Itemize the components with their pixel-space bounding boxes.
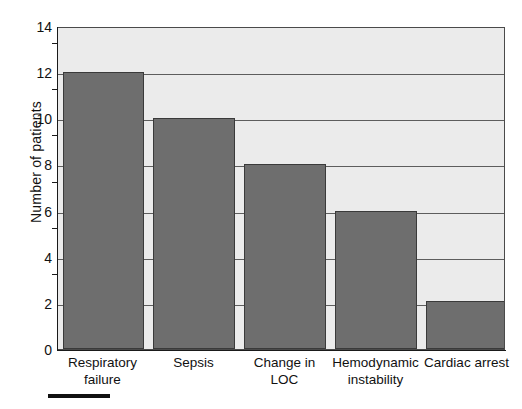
bar-cardiac-arrest[interactable] <box>426 301 505 350</box>
bar-change-in-loc[interactable] <box>244 164 326 349</box>
x-tick-label-line1: Sepsis <box>148 354 239 371</box>
x-tick-label-change-in-loc: Change in LOC <box>239 354 330 388</box>
x-tick-label-line1: Change in LOC <box>239 354 330 388</box>
x-tick-label-line1: Hemodynamic <box>330 354 421 371</box>
x-tick-label-line1: Cardiac arrest <box>421 354 512 371</box>
x-tick-label-sepsis: Sepsis <box>148 354 239 371</box>
bar-hemodynamic-instability[interactable] <box>335 211 417 349</box>
y-tick-label-12: 12 <box>26 64 52 82</box>
bar-chart-figure: Number of patients 0 2 4 6 8 10 12 14 <box>0 0 522 409</box>
plot-area <box>57 27 505 350</box>
y-axis-tick-labels: 0 2 4 6 8 10 12 14 <box>26 27 52 350</box>
x-tick-label-respiratory-failure: Respiratory failure <box>57 354 148 388</box>
y-tick-label-6: 6 <box>26 203 52 221</box>
y-tick-label-14: 14 <box>26 18 52 36</box>
y-tick-label-0: 0 <box>26 341 52 359</box>
x-axis-tick-labels: Respiratory failure Sepsis Change in LOC… <box>57 354 505 394</box>
bar-series <box>58 28 504 349</box>
y-tick-label-10: 10 <box>26 110 52 128</box>
y-tick-label-2: 2 <box>26 295 52 313</box>
x-tick-label-hemodynamic-instability: Hemodynamic instability <box>330 354 421 388</box>
x-tick-label-cardiac-arrest: Cardiac arrest <box>421 354 512 371</box>
x-axis-line <box>57 350 506 351</box>
x-tick-label-line1: Respiratory <box>57 354 148 371</box>
x-tick-label-line2: instability <box>330 371 421 388</box>
x-tick-label-line2: failure <box>57 371 148 388</box>
y-tick-label-8: 8 <box>26 156 52 174</box>
bottom-rule <box>48 394 110 398</box>
bar-sepsis[interactable] <box>153 118 235 349</box>
bar-respiratory-failure[interactable] <box>63 72 144 349</box>
y-tick-label-4: 4 <box>26 249 52 267</box>
y-axis-line <box>57 27 58 351</box>
